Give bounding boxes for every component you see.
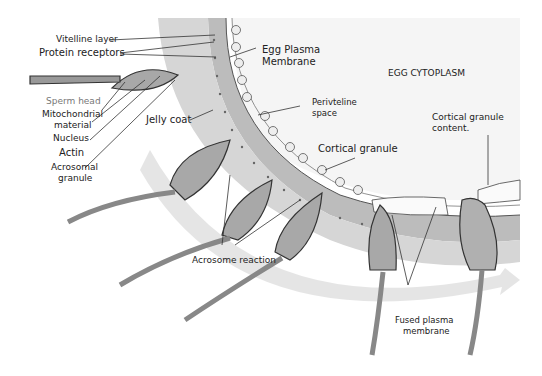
label-nucleus: Nucleus xyxy=(53,134,89,144)
label-mitochondrial-1: Mitochondrial xyxy=(42,110,103,120)
label-jelly-coat: Jelly coat xyxy=(146,114,191,125)
label-perivitelline-2: space xyxy=(312,109,337,118)
label-acrosomal-1: Acrosomal xyxy=(51,163,98,173)
fertilization-diagram: Vitelline layer Protein receptors Egg Pl… xyxy=(0,0,542,376)
label-actin: Actin xyxy=(59,147,84,158)
label-perivitelline-1: Perivteline xyxy=(312,98,357,107)
label-egg-plasma-membrane-1: Egg Plasma xyxy=(262,44,320,55)
label-cortical-content-2: content. xyxy=(432,124,469,134)
label-vitelline-layer: Vitelline layer xyxy=(56,35,118,45)
label-fused-2: membrane xyxy=(403,327,450,336)
label-cortical-content-1: Cortical granule xyxy=(432,113,504,123)
label-egg-plasma-membrane-2: Membrane xyxy=(262,56,316,67)
label-fused-1: Fused plasma xyxy=(395,316,453,325)
label-mitochondrial-2: material xyxy=(54,121,92,131)
label-protein-receptors: Protein receptors xyxy=(39,47,125,58)
label-sperm-head: Sperm head xyxy=(46,97,101,107)
label-acrosomal-2: granule xyxy=(58,174,92,184)
label-egg-cytoplasm: EGG CYTOPLASM xyxy=(388,69,465,79)
label-cortical-granule: Cortical granule xyxy=(318,143,398,154)
label-acrosome-reaction: Acrosome reaction xyxy=(192,256,276,266)
